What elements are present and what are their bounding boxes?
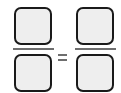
right-numerator-box[interactable] bbox=[76, 7, 114, 45]
equals-sign-top-stroke bbox=[58, 54, 67, 56]
left-denominator-box[interactable] bbox=[14, 54, 52, 92]
left-fraction-bar bbox=[13, 48, 54, 50]
equals-sign-bottom-stroke bbox=[58, 59, 67, 61]
right-denominator-box[interactable] bbox=[76, 54, 114, 92]
right-fraction-bar bbox=[75, 48, 116, 50]
left-numerator-box[interactable] bbox=[14, 7, 52, 45]
